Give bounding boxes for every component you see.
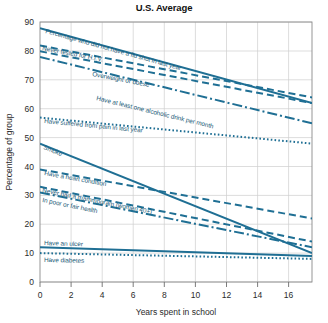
x-tick-2: 2 [69, 290, 74, 300]
x-axis-title: Years spent in school [136, 307, 217, 317]
y-tick-0: 0 [29, 277, 34, 287]
series-label-ulcer: Have an ulcer [44, 239, 84, 247]
series-label-diabetes: Have diabetes [44, 256, 84, 264]
y-tick-40: 40 [25, 162, 35, 172]
y-axis-title: Percentage of group [4, 113, 14, 190]
y-tick-80: 80 [25, 46, 35, 56]
x-tick-14: 14 [253, 290, 263, 300]
y-tick-labels: 0 10 20 30 40 50 60 70 80 90 [25, 17, 35, 287]
chart-container: U.S. Average [0, 0, 328, 323]
x-tick-12: 12 [222, 290, 232, 300]
y-tick-60: 60 [25, 104, 35, 114]
y-tick-30: 30 [25, 190, 35, 200]
x-tick-4: 4 [100, 290, 105, 300]
y-tick-50: 50 [25, 133, 35, 143]
x-tick-16: 16 [284, 290, 294, 300]
y-tick-10: 10 [25, 248, 35, 258]
y-tick-90: 90 [25, 17, 35, 27]
x-tick-8: 8 [162, 290, 167, 300]
x-tick-10: 10 [191, 290, 201, 300]
x-tick-6: 6 [131, 290, 136, 300]
y-tick-70: 70 [25, 75, 35, 85]
x-tick-marks [40, 282, 289, 287]
chart-plot: Percentage who did not have a flu shot i… [0, 0, 328, 323]
x-tick-0: 0 [38, 290, 43, 300]
y-tick-20: 20 [25, 219, 35, 229]
x-tick-labels: 0 2 4 6 8 10 12 14 16 [38, 290, 294, 300]
